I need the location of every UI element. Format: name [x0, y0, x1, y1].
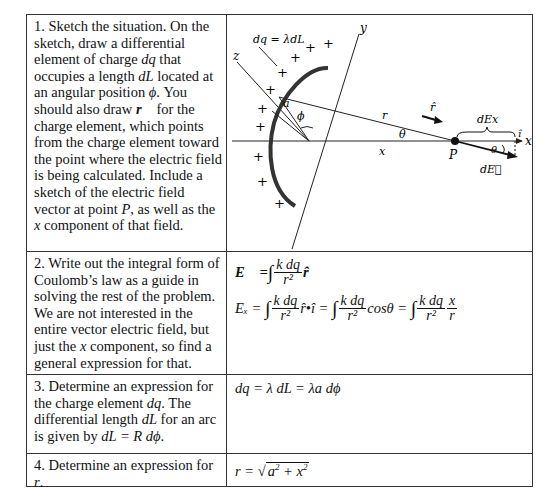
worksheet-table: 1. Sketch the situation. On the sketch, …	[26, 14, 533, 487]
integral-sign: ∫	[411, 297, 416, 320]
math-dq: dq	[147, 395, 162, 411]
r-lhs: r =	[235, 463, 258, 479]
charge-label-pointer	[259, 47, 277, 66]
x-axis-label: x	[525, 134, 532, 148]
prompt-text: 4. Determine an expression for	[34, 457, 213, 473]
math-P: P	[121, 201, 130, 217]
cos-theta-term: cosθ =	[367, 300, 407, 317]
theta2-arc	[502, 145, 504, 153]
prompt-step-3: 3. Determine an expression for the charg…	[27, 375, 227, 453]
dE-arrowhead-icon	[507, 151, 518, 159]
math-dL: dL	[138, 68, 153, 84]
sqrt-icon: √	[258, 463, 266, 479]
phi-label: ϕ	[297, 110, 305, 123]
dEx-brace	[457, 127, 515, 137]
x-distance-label: x	[379, 145, 386, 158]
prompt-text: .	[161, 428, 165, 444]
r-label: r	[382, 109, 388, 122]
integral-sign: ∫	[268, 261, 273, 284]
plus-sign: +	[290, 50, 301, 65]
plus-sign: +	[323, 36, 334, 51]
r-vector-line	[279, 97, 455, 141]
table-row-step-1: 1. Sketch the situation. On the sketch, …	[27, 15, 532, 251]
a-label: a	[283, 97, 290, 110]
numerator: k dq	[274, 258, 302, 273]
E-vector-lhs: E⃗ =	[235, 264, 268, 281]
arc-length-formula: dL = R dϕ	[101, 428, 160, 444]
table-row-step-3: 3. Determine an expression for the charg…	[27, 374, 532, 453]
dEx-label: dEx	[477, 113, 499, 126]
sqrt-radicand: a2 + x2	[266, 462, 310, 479]
plus-sign: +	[257, 174, 268, 189]
var-a: a	[268, 463, 275, 479]
plus-sign: +	[277, 65, 288, 80]
phi-angle-arc	[301, 127, 313, 129]
answer-step-4: r = √a2 + x2	[227, 454, 532, 486]
plus-sign: +	[257, 101, 268, 116]
prompt-text: .	[40, 474, 44, 490]
plus-sign: +	[255, 119, 266, 134]
dot-product-term: r̂•î =	[300, 300, 328, 317]
denominator: r²	[274, 273, 302, 286]
fraction: k dqr²	[274, 258, 302, 286]
diagram-cell: x y z ϕ a dq = λdL	[227, 15, 532, 251]
prompt-step-2: 2. Write out the integral form of Coulom…	[27, 252, 227, 374]
theta-label: θ	[399, 128, 406, 141]
integral-sign: ∫	[332, 297, 337, 320]
charge-element-label: dq = λdL	[253, 33, 305, 46]
charged-arc-diagram: x y z ϕ a dq = λdL	[227, 15, 532, 249]
r-hat-arrowhead-icon	[434, 116, 443, 124]
prompt-text: for the charge element, which points fro…	[34, 101, 222, 217]
table-row-step-2: 2. Write out the integral form of Coulom…	[27, 251, 532, 374]
numerator: k dq	[417, 294, 445, 309]
plus-operator: +	[279, 463, 296, 479]
answer-step-3: dq = λ dL = λa dϕ	[227, 375, 532, 453]
math-dq: dq	[141, 51, 156, 67]
Ex-lhs: Eₓ =	[235, 300, 261, 317]
fraction: k dqr²	[417, 294, 445, 322]
denominator: r²	[417, 309, 445, 322]
numerator: x	[447, 294, 457, 309]
dq-expression: dq = λ dL = λa dϕ	[235, 380, 340, 396]
numerator: k dq	[272, 294, 300, 309]
z-axis-label: z	[232, 49, 240, 63]
prompt-text: 1. Sketch the situation. On the sketch, …	[34, 18, 209, 67]
theta2-label: θ	[491, 144, 497, 155]
r-hat-label: r̂	[430, 101, 436, 114]
r-hat: r̂	[303, 264, 309, 281]
y-axis-label: y	[359, 21, 367, 35]
plus-sign: +	[305, 40, 316, 55]
charged-arc	[271, 68, 328, 206]
exponent: 2	[303, 462, 308, 472]
i-hat-label: î	[518, 128, 522, 139]
plus-sign: +	[253, 149, 264, 164]
plus-sign: +	[265, 82, 276, 97]
answer-step-2: E⃗ = ∫ k dqr² r̂ Eₓ = ∫ k dqr² r̂•î = ∫ …	[227, 252, 532, 374]
math-dL: dL	[142, 411, 157, 427]
fraction: xr	[447, 294, 457, 322]
integral-sign: ∫	[265, 297, 270, 320]
denominator: r	[447, 309, 457, 322]
prompt-text: , as well as the	[130, 201, 215, 217]
fraction: k dqr²	[272, 294, 300, 322]
prompt-step-1: 1. Sketch the situation. On the sketch, …	[27, 15, 227, 251]
plus-sign: +	[274, 196, 285, 211]
dE-label: dE⃗	[480, 163, 502, 176]
coulomb-vector-equation: E⃗ = ∫ k dqr² r̂	[235, 255, 524, 289]
dE-vector	[455, 141, 514, 156]
ex-component-equation: Eₓ = ∫ k dqr² r̂•î = ∫ k dqr² cosθ = ∫ k…	[235, 291, 524, 325]
prompt-text: component of that field.	[40, 217, 183, 233]
fraction: k dqr²	[339, 294, 367, 322]
math-r-vector: r⃗	[136, 101, 153, 117]
prompt-step-4: 4. Determine an expression for r.	[27, 454, 227, 486]
denominator: r²	[272, 309, 300, 322]
denominator: r²	[339, 309, 367, 322]
table-row-step-4: 4. Determine an expression for r. r = √a…	[27, 453, 532, 486]
P-label: P	[448, 148, 458, 162]
numerator: k dq	[339, 294, 367, 309]
